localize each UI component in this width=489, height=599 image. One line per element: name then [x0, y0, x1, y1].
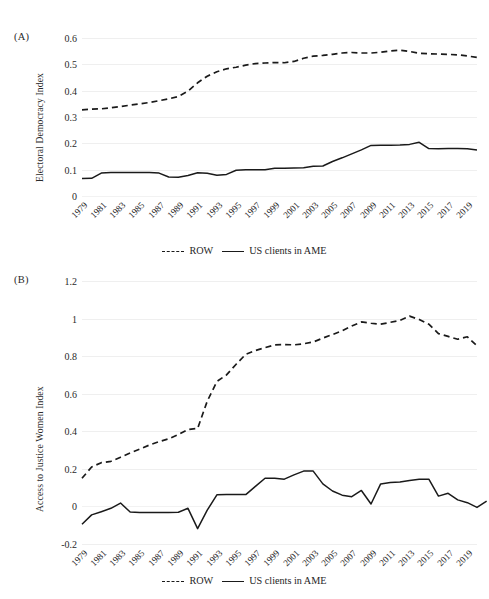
x-axis-tick-label: 2011 — [378, 200, 398, 220]
panel-a-legend: ROWUS clients in AME — [0, 246, 489, 256]
x-axis-tick-label: 2009 — [358, 200, 378, 220]
panel-a-plot-area: 00.10.20.30.40.50.6197919811983198519871… — [82, 38, 477, 196]
x-axis-tick-label: 2019 — [454, 548, 474, 568]
legend-item-row[interactable]: ROW — [162, 246, 213, 256]
x-axis-tick-label: 1989 — [165, 548, 185, 568]
x-axis-tick-label: 1987 — [146, 200, 166, 220]
y-axis-tick-label: 1.2 — [65, 276, 78, 287]
legend-label: ROW — [189, 246, 213, 256]
x-axis-tick-label: 2005 — [319, 200, 339, 220]
x-axis-tick-label: 1995 — [223, 548, 243, 568]
figure-container: (A) Electoral Democracy Index 00.10.20.3… — [0, 0, 489, 599]
legend-swatch-dashed-line-icon — [162, 581, 184, 582]
y-axis-tick-label: 0.3 — [65, 112, 78, 123]
series-layer-b — [82, 281, 477, 544]
x-axis-tick-label: 2011 — [378, 548, 398, 568]
x-axis-tick-label: 1989 — [165, 200, 185, 220]
y-axis-tick-label: 0.4 — [65, 85, 78, 96]
x-axis-tick-label: 1981 — [88, 548, 108, 568]
legend-label: US clients in AME — [249, 246, 326, 256]
panel-b: (B) Access to Justice Women Index -0.200… — [0, 262, 489, 599]
y-axis-tick-label: 0 — [72, 501, 77, 512]
x-axis-tick-label: 2015 — [416, 548, 436, 568]
series-layer-a — [82, 38, 477, 196]
panel-a-label: (A) — [14, 31, 29, 42]
legend-swatch-dashed-line-icon — [162, 251, 184, 252]
x-axis-tick-label: 2003 — [300, 548, 320, 568]
x-axis-tick-label: 1997 — [242, 200, 262, 220]
x-axis-tick-label: 1981 — [88, 200, 108, 220]
panel-b-legend: ROWUS clients in AME — [0, 576, 489, 586]
panel-b-y-axis-title: Access to Justice Women Index — [34, 386, 45, 512]
y-axis-tick-label: 0.6 — [65, 388, 78, 399]
x-axis-tick-label: 1993 — [204, 548, 224, 568]
x-axis-tick-label: 1993 — [204, 200, 224, 220]
x-axis-tick-label: 1983 — [108, 548, 128, 568]
x-axis-tick-label: 2007 — [339, 200, 359, 220]
x-axis-tick-label: 2013 — [397, 200, 417, 220]
y-axis-tick-label: 0.5 — [65, 59, 78, 70]
x-axis-tick-label: 1995 — [223, 200, 243, 220]
y-axis-tick-label: 0.2 — [65, 463, 78, 474]
x-axis-tick-label: 1999 — [262, 548, 282, 568]
gridline-b-0 — [82, 544, 477, 545]
x-axis-tick-label: 1979 — [69, 200, 89, 220]
panel-a-y-axis-title: Electoral Democracy Index — [34, 73, 45, 182]
x-axis-tick-label: 2017 — [435, 200, 455, 220]
legend-item-us-clients-in-ame[interactable]: US clients in AME — [222, 576, 326, 586]
x-axis-tick-label: 1991 — [185, 200, 205, 220]
x-axis-tick-label: 2009 — [358, 548, 378, 568]
series-line-row — [82, 50, 477, 110]
x-axis-tick-label: 2013 — [397, 548, 417, 568]
x-axis-tick-label: 2017 — [435, 548, 455, 568]
panel-b-plot-area: -0.200.20.40.60.811.21979198119831985198… — [82, 281, 477, 544]
x-axis-tick-label: 1985 — [127, 200, 147, 220]
x-axis-tick-label: 1999 — [262, 200, 282, 220]
legend-item-row[interactable]: ROW — [162, 576, 213, 586]
series-line-us-clients-in-ame — [82, 142, 477, 178]
gridline-a-0 — [82, 196, 477, 197]
series-line-us-clients-in-ame — [82, 471, 487, 528]
series-line-row — [82, 316, 477, 478]
x-axis-tick-label: 1991 — [185, 548, 205, 568]
x-axis-tick-label: 1985 — [127, 548, 147, 568]
x-axis-tick-label: 1983 — [108, 200, 128, 220]
x-axis-tick-label: 2001 — [281, 548, 301, 568]
y-axis-tick-label: 0.2 — [65, 138, 78, 149]
x-axis-tick-label: 2007 — [339, 548, 359, 568]
y-axis-tick-label: 0.6 — [65, 33, 78, 44]
panel-b-label: (B) — [14, 274, 29, 285]
y-axis-tick-label: 0.4 — [65, 426, 78, 437]
legend-item-us-clients-in-ame[interactable]: US clients in AME — [222, 246, 326, 256]
legend-swatch-solid-line-icon — [222, 581, 244, 582]
panel-a: (A) Electoral Democracy Index 00.10.20.3… — [0, 0, 489, 272]
legend-swatch-solid-line-icon — [222, 251, 244, 252]
x-axis-tick-label: 2019 — [454, 200, 474, 220]
y-axis-tick-label: 0.1 — [65, 164, 78, 175]
legend-label: US clients in AME — [249, 576, 326, 586]
y-axis-tick-label: 1 — [72, 313, 77, 324]
x-axis-tick-label: 2003 — [300, 200, 320, 220]
x-axis-tick-label: 2001 — [281, 200, 301, 220]
x-axis-tick-label: 2005 — [319, 548, 339, 568]
y-axis-tick-label: 0.8 — [65, 351, 78, 362]
x-axis-tick-label: 1979 — [69, 548, 89, 568]
legend-label: ROW — [189, 576, 213, 586]
x-axis-tick-label: 1987 — [146, 548, 166, 568]
x-axis-tick-label: 2015 — [416, 200, 436, 220]
x-axis-tick-label: 1997 — [242, 548, 262, 568]
y-axis-tick-label: 0 — [72, 191, 77, 202]
y-axis-tick-label: -0.2 — [61, 539, 77, 550]
